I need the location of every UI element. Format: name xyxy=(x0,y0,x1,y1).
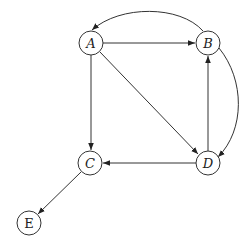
node-b: B xyxy=(196,31,220,55)
node-a: A xyxy=(79,31,103,55)
directed-graph: A B C D E xyxy=(0,0,251,250)
node-b-label: B xyxy=(202,36,213,51)
node-e-label: E xyxy=(24,216,34,231)
node-d-label: D xyxy=(202,156,214,171)
node-a-label: A xyxy=(85,36,95,51)
node-e: E xyxy=(17,211,41,235)
edge-b-to-d-curved xyxy=(218,48,238,157)
edge-c-to-e xyxy=(38,172,81,214)
edge-a-to-d xyxy=(100,52,198,154)
node-c: C xyxy=(78,151,102,175)
node-c-label: C xyxy=(85,156,95,171)
edge-b-to-a-curved xyxy=(92,11,203,31)
node-d: D xyxy=(196,151,220,175)
